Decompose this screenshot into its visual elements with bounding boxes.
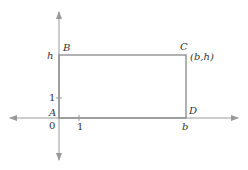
rectangle-diagram: B h C (b,h) A 0 D b 1 1 [0,0,248,170]
label-A: A [48,107,56,118]
label-C: C [180,41,188,52]
label-B: B [62,42,70,53]
label-x-tick: 1 [77,121,83,132]
label-origin: 0 [49,120,55,131]
label-C-coord: (b,h) [190,51,214,62]
label-b: b [182,121,188,132]
label-y-tick: 1 [49,92,55,103]
label-D: D [188,105,197,116]
rectangle-abcd [59,55,186,118]
label-h: h [47,50,53,61]
